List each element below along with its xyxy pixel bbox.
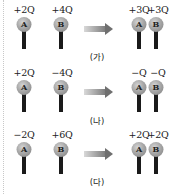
stem-a-after xyxy=(137,155,141,174)
sphere-b-after: B xyxy=(149,142,164,157)
sphere-a-before: A xyxy=(17,80,32,95)
sphere-b-label: B xyxy=(54,82,69,92)
caption: (다) xyxy=(90,175,105,187)
sphere-b-label: B xyxy=(54,19,69,29)
charge-b-after: +2Q xyxy=(147,129,168,140)
arrow-icon xyxy=(84,151,106,157)
stem-b-after xyxy=(154,30,158,49)
stem-b-before xyxy=(59,30,63,49)
charge-a-before: +2Q xyxy=(13,4,34,15)
stem-a-before xyxy=(22,30,26,49)
stem-a-before xyxy=(22,155,26,174)
arrow-icon xyxy=(84,89,106,95)
sphere-b-before: B xyxy=(54,142,69,157)
arrowhead-icon xyxy=(105,23,113,35)
sphere-a-after: A xyxy=(132,17,147,32)
charge-a-after: −Q xyxy=(131,67,146,78)
sphere-b-label: B xyxy=(149,82,164,92)
charge-b-before: +6Q xyxy=(51,129,72,140)
stem-b-before xyxy=(59,93,63,112)
sphere-b-label: B xyxy=(54,144,69,154)
sphere-a-after: A xyxy=(132,142,147,157)
charge-b-after: −Q xyxy=(150,67,165,78)
caption: (나) xyxy=(90,114,105,126)
charge-a-before: −2Q xyxy=(13,129,34,140)
charge-a-before: +2Q xyxy=(13,67,34,78)
stem-b-after xyxy=(154,93,158,112)
sphere-a-label: A xyxy=(132,82,147,92)
sphere-a-label: A xyxy=(132,19,147,29)
sphere-b-label: B xyxy=(149,144,164,154)
sphere-a-label: A xyxy=(17,82,32,92)
stem-b-after xyxy=(154,155,158,174)
sphere-b-after: B xyxy=(149,17,164,32)
charge-b-after: +3Q xyxy=(147,4,168,15)
arrow-icon xyxy=(84,26,106,32)
arrowhead-icon xyxy=(105,148,113,160)
stem-a-after xyxy=(137,93,141,112)
caption: (가) xyxy=(90,50,105,62)
sphere-a-before: A xyxy=(17,142,32,157)
charge-b-before: +4Q xyxy=(51,4,72,15)
sphere-a-label: A xyxy=(17,19,32,29)
sphere-a-after: A xyxy=(132,80,147,95)
arrowhead-icon xyxy=(105,86,113,98)
sphere-b-before: B xyxy=(54,80,69,95)
stem-a-after xyxy=(137,30,141,49)
sphere-b-before: B xyxy=(54,17,69,32)
sphere-a-before: A xyxy=(17,17,32,32)
sphere-b-after: B xyxy=(149,80,164,95)
sphere-b-label: B xyxy=(149,19,164,29)
diagram-ga: +2Q +4Q A B +3Q +3Q A B (가) xyxy=(0,0,181,64)
sphere-a-label: A xyxy=(17,144,32,154)
charge-b-before: −4Q xyxy=(51,67,72,78)
sphere-a-label: A xyxy=(132,144,147,154)
stem-b-before xyxy=(59,155,63,174)
diagram-da: −2Q +6Q A B +2Q +2Q A B (다) xyxy=(0,128,181,192)
stem-a-before xyxy=(22,93,26,112)
diagram-na: +2Q −4Q A B −Q −Q A B (나) xyxy=(0,64,181,128)
